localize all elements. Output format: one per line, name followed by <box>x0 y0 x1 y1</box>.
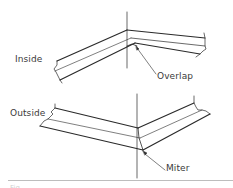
joint-drawing <box>0 0 233 188</box>
overlap-annotation: Overlap <box>157 71 193 81</box>
outside-label: Outside <box>10 108 45 118</box>
caption-divider <box>8 180 233 181</box>
miter-annotation: Miter <box>166 163 190 173</box>
molding-joint-figure: Inside Overlap Outside Miter Fig. <box>0 0 233 188</box>
figure-caption-truncated: Fig. <box>10 184 22 188</box>
inside-label: Inside <box>15 54 42 64</box>
